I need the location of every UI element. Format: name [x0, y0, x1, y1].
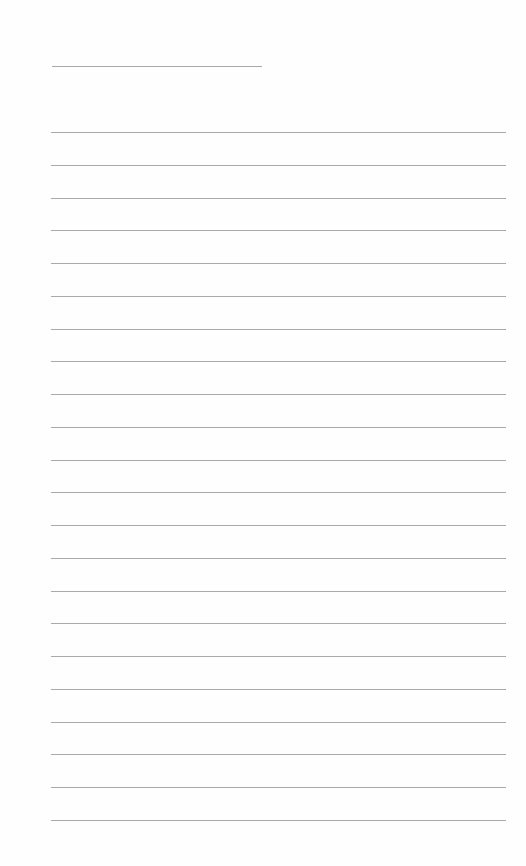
- ruled-line: [51, 591, 506, 592]
- ruled-line: [51, 492, 506, 493]
- ruled-line: [51, 754, 506, 755]
- ruled-line: [51, 427, 506, 428]
- ruled-line: [51, 460, 506, 461]
- ruled-line: [51, 558, 506, 559]
- ruled-line: [51, 361, 506, 362]
- ruled-line: [51, 263, 506, 264]
- title-line: [52, 66, 262, 67]
- ruled-line: [51, 689, 506, 690]
- ruled-line: [51, 525, 506, 526]
- ruled-line: [51, 820, 506, 821]
- ruled-line: [51, 623, 506, 624]
- ruled-line: [51, 165, 506, 166]
- ruled-line: [51, 230, 506, 231]
- ruled-line: [51, 198, 506, 199]
- ruled-line: [51, 722, 506, 723]
- ruled-line: [51, 787, 506, 788]
- ruled-line: [51, 656, 506, 657]
- ruled-line: [51, 329, 506, 330]
- ruled-line: [51, 296, 506, 297]
- ruled-line: [51, 394, 506, 395]
- ruled-line: [51, 132, 506, 133]
- lined-page: [0, 0, 526, 866]
